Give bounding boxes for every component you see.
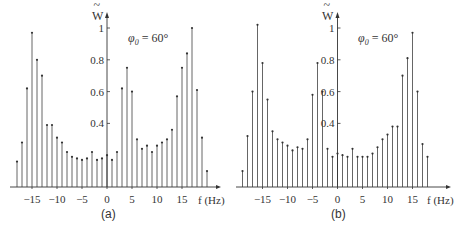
y-tick-label: 1 <box>99 22 105 34</box>
x-tick-label: 15 <box>407 193 419 205</box>
stem-marker <box>386 133 388 135</box>
stem-marker <box>41 75 43 77</box>
panel-label-a: (a) <box>101 207 116 221</box>
stem-marker <box>176 95 178 97</box>
x-tick-label: 10 <box>382 193 394 205</box>
stem-marker <box>96 159 98 161</box>
stems-panel-a <box>16 27 208 187</box>
x-tick-label: 5 <box>129 193 135 205</box>
stem-marker <box>276 138 278 140</box>
stem-marker <box>186 52 188 54</box>
stem-marker <box>381 138 383 140</box>
x-axis-label-a: f (Hz) <box>198 194 225 207</box>
stem-marker <box>101 157 103 159</box>
y-axis-arrow-icon <box>336 12 340 18</box>
stem-marker <box>351 148 353 150</box>
stem-marker <box>401 75 403 77</box>
stem-marker <box>371 153 373 155</box>
stem-marker <box>126 67 128 69</box>
x-tick-label: −5 <box>76 193 88 205</box>
stem-marker <box>76 157 78 159</box>
stem-marker <box>206 170 208 172</box>
stem-marker <box>136 138 138 140</box>
stem-marker <box>51 124 53 126</box>
stem-chart-figure: −15−10−50510150.40.60.81 W ~ φ0 = 60° f … <box>0 0 457 226</box>
stem-marker <box>326 148 328 150</box>
stem-marker <box>286 145 288 147</box>
stem-marker <box>426 156 428 158</box>
stem-marker <box>146 145 148 147</box>
stem-marker <box>201 137 203 139</box>
stem-marker <box>301 148 303 150</box>
x-tick-label: 10 <box>152 193 164 205</box>
phase-annotation-b: φ0 = 60° <box>358 31 398 47</box>
stem-marker <box>396 125 398 127</box>
stem-marker <box>86 157 88 159</box>
stem-marker <box>36 59 38 61</box>
stem-marker <box>341 154 343 156</box>
x-tick-label: 0 <box>104 193 110 205</box>
stem-marker <box>246 135 248 137</box>
stem-marker <box>356 156 358 158</box>
y-axis-label-tilde-b: ~ <box>324 0 331 12</box>
stem-marker <box>16 160 18 162</box>
stem-marker <box>46 124 48 126</box>
chart-panel-b: −15−10−50510150.40.60.81 W ~ φ0 = 60° f … <box>236 0 454 221</box>
x-tick-label: −15 <box>23 193 41 205</box>
x-axis-arrow-icon <box>216 185 221 189</box>
stem-marker <box>391 125 393 127</box>
x-tick-label: −10 <box>48 193 66 205</box>
stem-marker <box>266 98 268 100</box>
y-axis-label-tilde-a: ~ <box>94 0 101 12</box>
y-tick-label: 1 <box>329 22 335 34</box>
stem-marker <box>346 156 348 158</box>
stem-marker <box>171 129 173 131</box>
stem-marker <box>251 91 253 93</box>
stem-marker <box>191 27 193 29</box>
chart-panel-a: −15−10−50510150.40.60.81 W ~ φ0 = 60° f … <box>10 0 225 221</box>
panel-label-b: (b) <box>331 207 346 221</box>
stem-marker <box>166 138 168 140</box>
stem-marker <box>61 141 63 143</box>
stem-marker <box>66 151 68 153</box>
stem-marker <box>121 87 123 89</box>
stem-marker <box>406 57 408 59</box>
stem-marker <box>376 146 378 148</box>
stem-marker <box>111 159 113 161</box>
y-tick-label: 0.6 <box>90 86 104 98</box>
y-tick-label: 0.4 <box>321 117 335 129</box>
stem-marker <box>151 151 153 153</box>
stem-marker <box>71 156 73 158</box>
stem-marker <box>26 87 28 89</box>
x-tick-label: 5 <box>360 193 366 205</box>
x-axis-label-b: f (Hz) <box>427 194 454 207</box>
stem-marker <box>141 148 143 150</box>
phase-annotation-a: φ0 = 60° <box>128 31 168 47</box>
y-tick-label: 0.6 <box>321 86 335 98</box>
stem-marker <box>161 141 163 143</box>
stem-marker <box>281 141 283 143</box>
stem-marker <box>181 67 183 69</box>
stem-marker <box>306 138 308 140</box>
x-tick-label: 0 <box>335 193 341 205</box>
stem-marker <box>131 91 133 93</box>
stem-marker <box>416 91 418 93</box>
stem-marker <box>156 145 158 147</box>
x-tick-label: −15 <box>254 193 272 205</box>
y-axis-arrow-icon <box>105 12 109 18</box>
y-tick-label: 0.8 <box>90 54 104 66</box>
stem-marker <box>81 159 83 161</box>
x-tick-label: 15 <box>177 193 189 205</box>
stem-marker <box>21 141 23 143</box>
stem-marker <box>331 156 333 158</box>
stem-marker <box>256 24 258 26</box>
stem-marker <box>316 62 318 64</box>
stem-marker <box>261 62 263 64</box>
stem-marker <box>271 130 273 132</box>
x-axis-arrow-icon <box>446 185 451 189</box>
stem-marker <box>241 170 243 172</box>
stem-marker <box>56 137 58 139</box>
stems-panel-b <box>241 24 428 187</box>
y-tick-label: 0.8 <box>321 54 335 66</box>
x-tick-label: −10 <box>279 193 297 205</box>
